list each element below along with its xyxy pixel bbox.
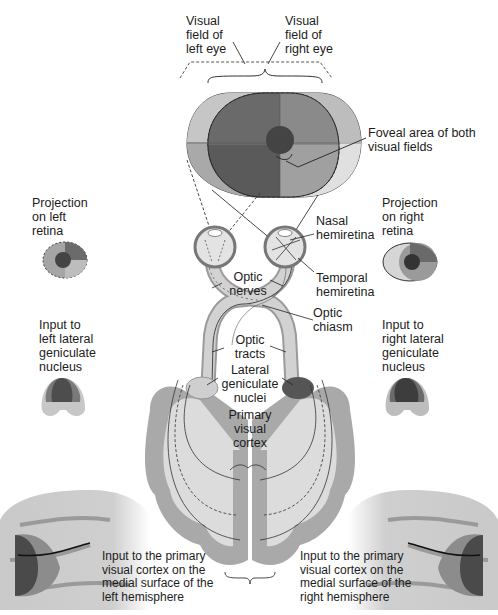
visual-pathway-diagram bbox=[0, 0, 498, 615]
label-projection-left-retina: Projection on left retina bbox=[32, 196, 88, 238]
label-lateral-geniculate-nuclei: Lateral geniculate nuclei bbox=[215, 363, 285, 405]
label-projection-right-retina: Projection on right retina bbox=[382, 196, 438, 238]
right-retina-projection bbox=[383, 243, 437, 281]
left-lgn bbox=[186, 377, 218, 399]
label-input-cortex-left: Input to the primary visual cortex on th… bbox=[102, 550, 213, 604]
right-lgn-input-shape bbox=[386, 378, 429, 416]
left-retina-projection bbox=[43, 242, 87, 278]
label-temporal-hemiretina: Temporal hemiretina bbox=[316, 271, 374, 299]
label-input-right-lgn: Input to right lateral geniculate nucleu… bbox=[382, 318, 444, 374]
label-primary-visual-cortex: Primary visual cortex bbox=[215, 408, 285, 450]
label-optic-tracts: Optic tracts bbox=[222, 333, 278, 361]
label-foveal-area: Foveal area of both visual fields bbox=[368, 126, 476, 154]
fovea bbox=[266, 126, 294, 154]
label-visual-field-right: Visual field of right eye bbox=[285, 14, 333, 56]
cortex-brace bbox=[225, 572, 275, 584]
brain-section bbox=[145, 377, 355, 565]
label-optic-chiasm: Optic chiasm bbox=[313, 306, 353, 334]
label-optic-nerves: Optic nerves bbox=[220, 270, 276, 298]
right-lgn bbox=[282, 377, 314, 399]
label-visual-field-left: Visual field of left eye bbox=[186, 14, 226, 56]
optic-pathway bbox=[195, 227, 305, 385]
label-nasal-hemiretina: Nasal hemiretina bbox=[316, 214, 374, 242]
binocular-visual-field bbox=[187, 93, 366, 197]
label-input-left-lgn: Input to left lateral geniculate nucleus bbox=[39, 318, 96, 374]
left-lgn-input-shape bbox=[42, 378, 85, 416]
label-input-cortex-right: Input to the primary visual cortex on th… bbox=[300, 550, 411, 604]
